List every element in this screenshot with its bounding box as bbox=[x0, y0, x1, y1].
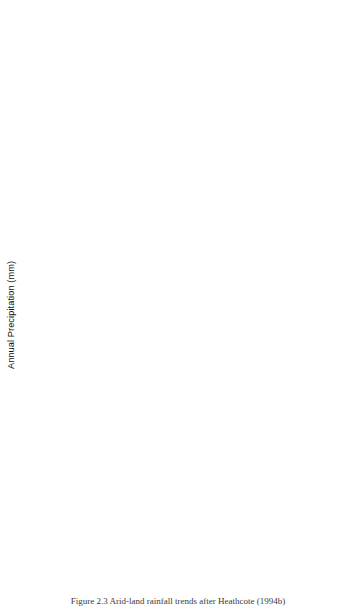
figure-root: Annual Precipitation (mm) Figure 2.3 Ari… bbox=[0, 0, 356, 609]
y-axis-label-text: Annual Precipitation (mm) bbox=[6, 261, 16, 369]
y-axis-label: Annual Precipitation (mm) bbox=[2, 150, 20, 480]
figure-caption: Figure 2.3 Arid-land rainfall trends aft… bbox=[0, 596, 356, 606]
